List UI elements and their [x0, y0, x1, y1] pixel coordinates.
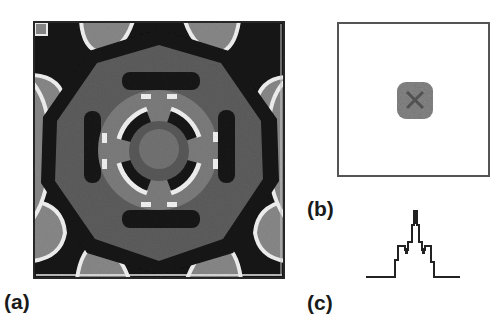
intensity-pattern-image	[33, 21, 285, 279]
figure-panel-c	[366, 208, 462, 280]
panel-label-a: (a)	[4, 291, 30, 312]
panel-label-b: (b)	[307, 198, 334, 219]
figure-panel-b	[337, 22, 490, 177]
intensity-profile-plot	[366, 208, 462, 280]
panel-label-c: (c)	[307, 292, 333, 313]
spot-image	[337, 22, 490, 177]
figure-panel-a	[33, 21, 285, 279]
